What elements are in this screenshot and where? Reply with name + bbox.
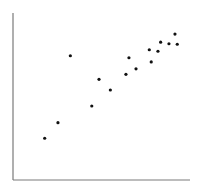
scatter-chart: [0, 0, 200, 186]
data-point: [43, 137, 46, 140]
data-point: [167, 42, 170, 45]
data-point: [127, 56, 130, 59]
data-point: [159, 41, 162, 44]
data-point: [148, 48, 151, 51]
data-point: [90, 104, 93, 107]
data-point: [124, 73, 127, 76]
data-point: [173, 32, 176, 35]
data-point: [134, 67, 137, 70]
data-point: [176, 43, 179, 46]
data-point: [56, 121, 59, 124]
data-point: [97, 78, 100, 81]
data-point: [156, 50, 159, 53]
plot-area: [13, 13, 190, 180]
data-point: [69, 54, 72, 57]
data-point: [109, 88, 112, 91]
data-points: [43, 32, 179, 139]
data-point: [150, 60, 153, 63]
